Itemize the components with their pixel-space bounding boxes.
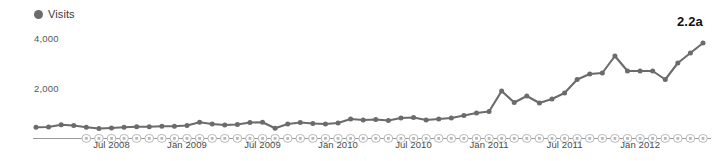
data-point[interactable] [575,77,580,82]
data-point[interactable] [159,124,164,129]
data-point[interactable] [197,120,202,125]
data-point[interactable] [147,124,152,129]
data-point[interactable] [625,69,630,74]
data-point[interactable] [524,94,529,99]
data-point[interactable] [222,123,227,128]
data-point[interactable] [650,69,655,74]
data-point[interactable] [109,126,114,131]
data-point[interactable] [361,118,366,123]
data-point[interactable] [260,120,265,125]
data-point[interactable] [134,124,139,129]
data-point[interactable] [122,125,127,130]
data-point[interactable] [474,111,479,116]
data-point[interactable] [398,116,403,121]
x-axis-labels: Jul 2008Jan 2009Jul 2009Jan 2010Jul 2010… [0,139,721,153]
data-point[interactable] [512,100,517,105]
data-point[interactable] [34,125,39,130]
data-point[interactable] [71,123,76,128]
data-point[interactable] [701,41,706,46]
data-point[interactable] [688,51,693,56]
x-axis-tick-label: Jan 2009 [167,139,207,150]
data-point[interactable] [96,126,101,131]
data-point[interactable] [499,89,504,94]
data-point[interactable] [172,124,177,129]
data-point[interactable] [235,122,240,127]
x-axis-tick-label: Jan 2010 [318,139,358,150]
series-visits [34,41,706,132]
data-point[interactable] [285,122,290,127]
data-point[interactable] [373,117,378,122]
data-point[interactable] [59,122,64,127]
x-axis-tick-label: Jul 2009 [244,139,281,150]
data-point[interactable] [487,109,492,114]
data-point[interactable] [449,116,454,121]
data-point[interactable] [638,69,643,74]
data-point[interactable] [600,71,605,76]
data-point[interactable] [46,125,51,130]
data-point[interactable] [411,115,416,120]
data-point[interactable] [273,126,278,131]
data-point[interactable] [386,118,391,123]
series-line [36,43,703,129]
data-point[interactable] [336,121,341,126]
plot-area [0,0,721,161]
x-axis-tick-label: Jan 2011 [470,139,509,150]
data-point[interactable] [663,77,668,82]
visits-line-chart: Visits 2.2a 4,000 2,000 Jul 2008Jan 2009… [0,0,721,161]
data-point[interactable] [587,72,592,77]
data-point[interactable] [436,117,441,122]
data-point[interactable] [247,120,252,125]
x-axis-tick-label: Jul 2010 [395,139,432,150]
data-point[interactable] [562,91,567,96]
data-point[interactable] [310,121,315,126]
data-point[interactable] [298,120,303,125]
data-point[interactable] [537,101,542,106]
data-point[interactable] [84,125,89,130]
data-point[interactable] [348,117,353,122]
data-point[interactable] [323,122,328,127]
x-axis-tick-label: Jul 2008 [93,139,130,150]
data-point[interactable] [210,122,215,127]
x-axis-tick-label: Jan 2012 [620,139,660,150]
data-point[interactable] [424,118,429,123]
data-point[interactable] [675,61,680,66]
x-axis-tick-label: Jul 2011 [547,139,583,150]
data-point[interactable] [461,113,466,118]
data-point[interactable] [549,97,554,102]
data-point[interactable] [612,54,617,59]
data-point[interactable] [185,123,190,128]
